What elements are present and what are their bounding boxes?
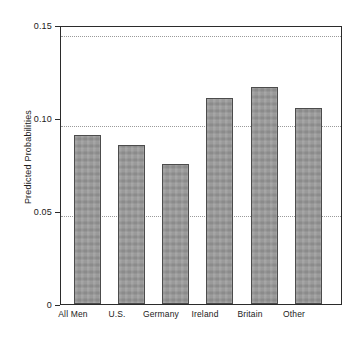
y-tick-label-0.10: 0.10 — [4, 114, 52, 124]
bar-other — [295, 108, 322, 304]
y-tick-mark-0 — [55, 305, 60, 306]
bar-germany — [162, 164, 189, 304]
x-tick-label-other: Other — [264, 309, 324, 319]
bar-all-men — [74, 135, 101, 304]
y-tick-label-0.05: 0.05 — [4, 207, 52, 217]
y-tick-label-0.15: 0.15 — [4, 21, 52, 31]
bar-us — [118, 145, 145, 304]
bar-britain — [251, 87, 278, 304]
y-axis-tick-labels: 0.15 0.10 0.05 0 — [0, 0, 52, 337]
plot-area — [60, 26, 342, 305]
gridline-0.15 — [61, 36, 341, 37]
bar-ireland — [206, 98, 233, 304]
bar-chart-figure: Predicted Probabilities 0.15 0.10 0.05 0… — [0, 0, 356, 337]
